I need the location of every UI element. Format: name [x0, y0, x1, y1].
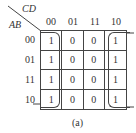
- figure-caption: (a): [72, 118, 83, 128]
- loop-extensions: [0, 0, 136, 133]
